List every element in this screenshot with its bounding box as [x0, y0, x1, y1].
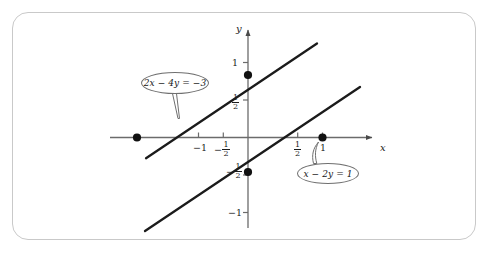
callout-1-leader	[173, 94, 180, 119]
x-tick-label--1: −1	[193, 143, 207, 153]
y-axis-label: y	[236, 24, 242, 34]
x-tick--0.5-fraction: 12	[222, 141, 229, 159]
x-axis	[110, 133, 372, 138]
point-0--0.5	[244, 168, 252, 176]
y-tick-label-1: 1	[232, 58, 238, 68]
y-tick--0.5-sign: −	[226, 167, 234, 177]
callout-equation-1: 2x − 4y = −3	[141, 72, 209, 94]
x-axis-label: x	[380, 143, 386, 153]
point--1.5-0	[133, 133, 141, 141]
figure-container: x y −1 −12 12 1 1 12 −12 −1 2x − 4y = −3…	[0, 0, 500, 255]
y-tick-label-0.5: 12	[232, 94, 239, 112]
point-1-0	[318, 133, 326, 141]
x-tick-0.5-fraction: 12	[294, 141, 301, 159]
coordinate-plot	[0, 0, 500, 255]
x-tick-label-1: 1	[320, 143, 326, 153]
y-tick-label--1: −1	[228, 208, 242, 218]
y-tick--0.5-fraction: 12	[234, 163, 241, 181]
x-tick-label--0.5: −12	[214, 141, 230, 159]
y-axis	[243, 30, 248, 228]
point-0-0.75	[244, 71, 252, 79]
y-tick-label--0.5: −12	[226, 163, 242, 181]
callout-2-leader	[313, 142, 319, 164]
callout-equation-2: x − 2y = 1	[297, 163, 359, 184]
x-tick-label-0.5: 12	[294, 141, 301, 159]
x-tick--0.5-sign: −	[214, 145, 222, 155]
y-tick-0.5-fraction: 12	[232, 94, 239, 112]
